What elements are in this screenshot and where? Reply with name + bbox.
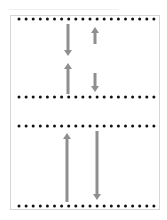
- dot: [18, 18, 21, 21]
- dot: [81, 125, 84, 128]
- dot: [60, 205, 63, 208]
- dot: [103, 125, 106, 128]
- dot: [67, 96, 70, 99]
- dot: [96, 96, 99, 99]
- dot: [25, 125, 28, 128]
- dot: [32, 125, 35, 128]
- dot: [18, 205, 21, 208]
- dot: [124, 125, 127, 128]
- dot: [81, 205, 84, 208]
- top-right-up-arrow-icon: [91, 27, 99, 44]
- dot: [138, 96, 141, 99]
- dot: [89, 18, 92, 21]
- dot: [145, 18, 148, 21]
- dot: [131, 205, 134, 208]
- dot: [74, 18, 77, 21]
- dot: [152, 125, 155, 128]
- bottom-panel-upper-row: [18, 125, 156, 128]
- dot: [46, 18, 49, 21]
- dot: [145, 125, 148, 128]
- dot: [117, 205, 120, 208]
- bottom-right-down-arrow-icon: [93, 131, 101, 200]
- dot: [53, 205, 56, 208]
- dot: [18, 125, 21, 128]
- dot: [67, 125, 70, 128]
- dot: [25, 18, 28, 21]
- dot: [103, 96, 106, 99]
- dot: [145, 96, 148, 99]
- top-panel-upper-row: [18, 18, 156, 21]
- dot: [96, 18, 99, 21]
- dot: [81, 96, 84, 99]
- bottom-left-up-arrow-icon: [63, 133, 71, 202]
- dot: [74, 205, 77, 208]
- top-right-down-arrow-icon: [91, 73, 99, 92]
- dot: [46, 125, 49, 128]
- top-left-down-arrow-icon: [64, 24, 72, 56]
- dot: [60, 18, 63, 21]
- dot: [103, 205, 106, 208]
- dot: [74, 96, 77, 99]
- dot: [89, 125, 92, 128]
- dot: [89, 96, 92, 99]
- dot: [152, 205, 155, 208]
- dot: [131, 125, 134, 128]
- dot: [131, 96, 134, 99]
- dot: [46, 205, 49, 208]
- dot: [18, 96, 21, 99]
- dot: [138, 18, 141, 21]
- dot: [53, 18, 56, 21]
- top-panel-lower-row: [18, 96, 156, 99]
- dot: [117, 18, 120, 21]
- dot: [25, 205, 28, 208]
- dot: [124, 96, 127, 99]
- top-left-up-arrow-icon: [64, 63, 72, 94]
- dot: [152, 96, 155, 99]
- dot: [32, 18, 35, 21]
- dot: [53, 125, 56, 128]
- diagram-canvas: [0, 0, 167, 220]
- dot: [32, 96, 35, 99]
- dot: [117, 96, 120, 99]
- dot: [39, 125, 42, 128]
- dot: [53, 96, 56, 99]
- dot: [110, 205, 113, 208]
- dot: [74, 125, 77, 128]
- dot: [138, 125, 141, 128]
- dot: [110, 18, 113, 21]
- dot: [32, 205, 35, 208]
- dot: [131, 18, 134, 21]
- dot: [39, 18, 42, 21]
- bottom-panel-lower-row: [18, 205, 156, 208]
- dot: [110, 96, 113, 99]
- dot: [103, 18, 106, 21]
- dot: [110, 125, 113, 128]
- dot: [67, 205, 70, 208]
- dot: [39, 96, 42, 99]
- dot: [89, 205, 92, 208]
- dot: [138, 205, 141, 208]
- dot: [124, 205, 127, 208]
- dot: [60, 125, 63, 128]
- dot: [25, 96, 28, 99]
- dot: [124, 18, 127, 21]
- dot: [96, 125, 99, 128]
- dot: [145, 205, 148, 208]
- dot: [46, 96, 49, 99]
- dot: [117, 125, 120, 128]
- dot: [60, 96, 63, 99]
- dot: [152, 18, 155, 21]
- dot: [96, 205, 99, 208]
- dot: [39, 205, 42, 208]
- dot: [81, 18, 84, 21]
- dot: [67, 18, 70, 21]
